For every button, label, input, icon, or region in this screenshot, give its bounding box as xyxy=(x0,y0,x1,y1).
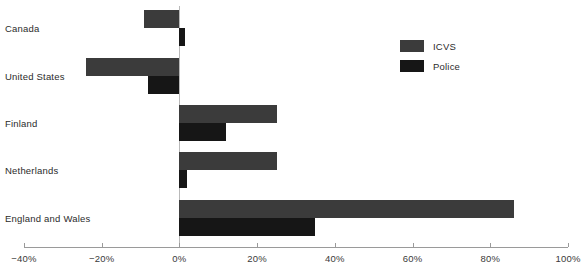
x-axis-tick xyxy=(335,243,336,247)
bar-canada-police xyxy=(179,28,185,46)
bar-england-and-wales-icvs xyxy=(179,200,513,218)
legend-label-icvs: ICVS xyxy=(433,41,456,52)
legend-label-police: Police xyxy=(433,61,460,72)
plot-area xyxy=(0,0,587,247)
x-axis-tick-label: −20% xyxy=(89,253,114,264)
x-axis-tick xyxy=(257,243,258,247)
bar-england-and-wales-police xyxy=(179,218,315,236)
category-label-netherlands: Netherlands xyxy=(5,165,58,176)
legend-item-police: Police xyxy=(400,56,460,76)
x-axis-tick-label: −40% xyxy=(11,253,36,264)
x-axis-tick-label: 60% xyxy=(403,253,423,264)
category-label-finland: Finland xyxy=(5,118,38,129)
x-axis-tick xyxy=(179,243,180,247)
x-axis-tick-label: 0% xyxy=(172,253,186,264)
x-axis-tick xyxy=(102,243,103,247)
category-label-canada: Canada xyxy=(5,23,39,34)
x-axis-tick-label: 20% xyxy=(247,253,267,264)
bar-finland-icvs xyxy=(179,105,276,123)
category-label-england-and-wales: England and Wales xyxy=(5,213,90,224)
category-label-united-states: United States xyxy=(5,71,65,82)
bar-netherlands-icvs xyxy=(179,152,276,170)
bar-finland-police xyxy=(179,123,226,141)
legend-item-icvs: ICVS xyxy=(400,36,460,56)
bar-united-states-icvs xyxy=(86,58,179,76)
x-axis-tick xyxy=(490,243,491,247)
bar-chart: CanadaUnited StatesFinlandNetherlandsEng… xyxy=(0,0,587,280)
x-axis-tick-label: 80% xyxy=(480,253,500,264)
legend-swatch-icon-icvs xyxy=(400,40,424,52)
x-axis-tick-label: 100% xyxy=(555,253,580,264)
bar-netherlands-police xyxy=(179,170,187,188)
x-axis-tick xyxy=(24,243,25,247)
x-axis-tick-label: 40% xyxy=(325,253,345,264)
x-axis-tick xyxy=(413,243,414,247)
legend: ICVS Police xyxy=(400,36,460,76)
bar-canada-icvs xyxy=(144,10,179,28)
legend-swatch-icon-police xyxy=(400,60,424,72)
x-axis-line xyxy=(24,247,568,248)
bar-united-states-police xyxy=(148,76,179,94)
x-axis-tick xyxy=(568,243,569,247)
